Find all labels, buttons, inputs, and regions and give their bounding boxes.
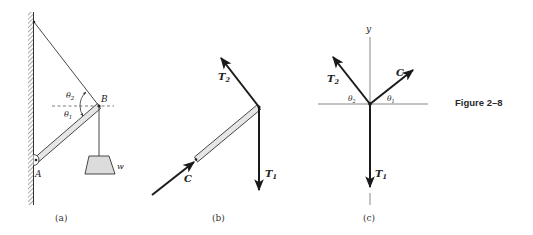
figure-caption: Figure 2–8 bbox=[455, 97, 503, 108]
origin-point bbox=[368, 102, 372, 106]
figure-2-8: θ2 θ1 B A w (a) T2 T1 C (b) y T bbox=[0, 0, 533, 235]
panel-b-label: (b) bbox=[212, 213, 225, 223]
force-t2-label: T2 bbox=[218, 71, 230, 84]
boom-fbd bbox=[195, 105, 261, 163]
force-t1-label: T1 bbox=[265, 168, 277, 181]
panel-b: T2 T1 C (b) bbox=[152, 58, 277, 223]
force-c-label-c: C bbox=[396, 67, 404, 78]
theta1-label: θ1 bbox=[64, 110, 72, 120]
panel-a: θ2 θ1 B A w (a) bbox=[28, 12, 124, 223]
theta2-arc bbox=[80, 92, 86, 106]
force-c-label: C bbox=[184, 173, 192, 184]
wall-hatching bbox=[28, 12, 33, 205]
cable-anchor bbox=[33, 21, 36, 24]
pin-a bbox=[35, 159, 38, 162]
theta1-label-c: θ1 bbox=[387, 94, 395, 104]
theta2-label-c: θ2 bbox=[348, 94, 356, 104]
weight-label: w bbox=[117, 162, 124, 171]
force-t1-label-c: T1 bbox=[375, 168, 387, 181]
panel-a-label: (a) bbox=[55, 213, 67, 223]
boom-end-pin bbox=[195, 158, 198, 161]
panel-c-label: (c) bbox=[363, 213, 375, 223]
weight-block bbox=[85, 156, 115, 174]
joint-b-fbd bbox=[257, 105, 260, 108]
point-a-label: A bbox=[34, 169, 42, 179]
theta1-arc bbox=[80, 106, 83, 116]
y-axis-label: y bbox=[365, 24, 372, 34]
force-t2-label-c: T2 bbox=[327, 73, 339, 86]
panel-c: y T2 C T1 θ2 θ1 (c) bbox=[318, 24, 428, 223]
point-b-label: B bbox=[100, 94, 108, 104]
theta2-label: θ2 bbox=[66, 91, 75, 101]
